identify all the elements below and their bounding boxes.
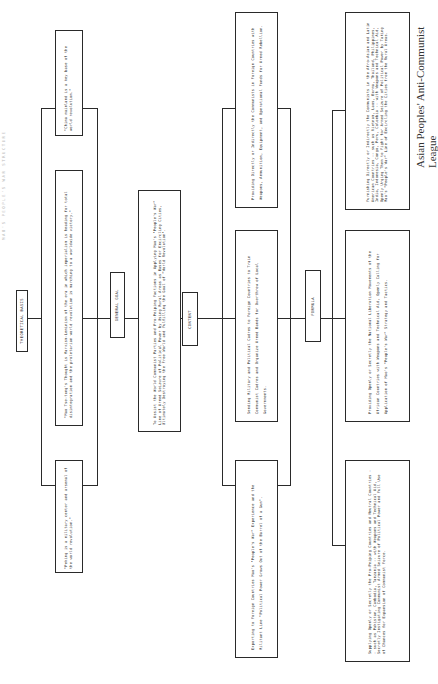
quote-text: "Mao Tse-tung's Thought is Marxism-Lenin… [64,178,73,418]
content-item-text: Sending Military and Political Cadres to… [245,238,269,414]
source-credit: Asian Peoples' Anti-Communist League [414,18,438,168]
content-item-box: Exporting to Foreign Countries Mao's "Pe… [235,460,278,658]
theoretical-basis-box: THEORETICAL BASIS [16,290,28,352]
content-item-box: Sending Military and Political Cadres to… [235,230,278,422]
formula-label: FORMULA [311,297,316,316]
connector-line [321,318,345,319]
formula-item-text: Supplying Openly or Secretly the Pro-Pei… [368,468,386,654]
connector-line [277,485,290,486]
connector-line [277,108,290,109]
quote-box: "Peking is a military center and arsenal… [55,460,83,573]
general-goal-box: GENERAL GOAL [110,272,125,338]
formula-box: FORMULA [305,270,321,342]
connector-line [277,318,305,319]
faint-title: MAO'S PEOPLE'S WAR STRUCTURE [1,110,6,240]
connector-line [125,318,138,319]
general-goal-text: To Assist the World Communist Parties an… [153,197,167,425]
content-item-text: Providing Directly or Indirectly the Com… [249,20,265,200]
theoretical-basis-label: THEORETICAL BASIS [20,298,25,344]
connector-line [332,545,345,546]
general-goal-label: GENERAL GOAL [115,289,120,321]
connector-line [28,318,41,319]
connector-line [198,318,235,319]
branch-line [290,108,291,486]
branch-line [222,108,223,486]
content-label: CONTENT [188,310,193,329]
branch-line [41,108,42,486]
connector-line [41,108,55,109]
connector-line [82,108,97,109]
content-box: CONTENT [182,292,198,346]
quote-box: "Mao Tse-tung's Thought is Marxism-Lenin… [55,170,83,426]
quote-box: "China mainland is a key base of the wor… [55,30,83,136]
general-goal-text-box: To Assist the World Communist Parties an… [138,190,181,432]
connector-line [222,485,235,486]
formula-item-box: Providing Openly or Secretly the Nationa… [345,230,410,422]
quote-text: "China mainland is a key base of the wor… [64,35,73,131]
content-item-text: Exporting to Foreign Countries Mao's "Pe… [249,468,265,650]
formula-item-text: Furnishing Directly or Indirectly the Co… [366,20,389,202]
branch-line [97,108,98,486]
connector-line [41,485,55,486]
connector-line [222,108,235,109]
formula-item-box: Furnishing Directly or Indirectly the Co… [345,12,410,210]
formula-item-box: Supplying Openly or Secretly the Pro-Pei… [345,460,410,662]
connector-line [82,318,110,319]
formula-item-text: Providing Openly or Secretly the Nationa… [366,238,390,414]
connector-line [82,485,97,486]
quote-text: "Peking is a military center and arsenal… [64,465,73,569]
branch-line [332,110,333,546]
content-item-box: Providing Directly or Indirectly the Com… [235,12,278,208]
connector-line [332,110,345,111]
